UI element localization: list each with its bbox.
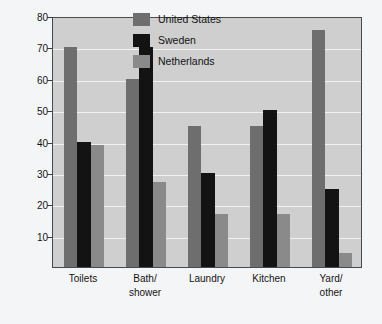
y-axis-tick-label: 60	[26, 74, 48, 85]
bar	[325, 189, 339, 267]
x-axis-category-label: Yard/other	[291, 272, 371, 299]
bar	[126, 79, 140, 267]
y-axis-tick-label: 20	[26, 200, 48, 211]
bar	[263, 110, 277, 267]
legend: United StatesSwedenNetherlands	[133, 9, 283, 72]
x-axis-category-label-line: shower	[105, 286, 185, 300]
bar-chart-figure: Liters of water per person per day 10203…	[0, 0, 382, 324]
legend-label: Netherlands	[158, 55, 215, 67]
bar	[312, 30, 326, 267]
bar	[215, 214, 229, 267]
x-axis-category-label-line: Yard/	[291, 272, 371, 286]
y-axis-tick-label: 50	[26, 106, 48, 117]
bar	[153, 182, 167, 267]
y-axis-tick-label: 80	[26, 12, 48, 23]
bar	[64, 47, 78, 267]
bar	[91, 145, 105, 267]
y-axis-tick-label: 30	[26, 168, 48, 179]
bar	[201, 173, 215, 267]
legend-swatch-icon	[133, 34, 150, 47]
y-axis-tick-label: 70	[26, 43, 48, 54]
legend-swatch-icon	[133, 55, 150, 68]
bar	[139, 47, 153, 267]
x-axis-category-labels: ToiletsBath/showerLaundryKitchenYard/oth…	[52, 272, 362, 318]
y-axis-tick-label: 10	[26, 231, 48, 242]
y-axis-tick-labels: 1020304050607080	[26, 14, 48, 270]
legend-label: United States	[158, 13, 221, 25]
legend-item: Sweden	[133, 30, 283, 50]
bar	[339, 253, 353, 267]
bar	[77, 142, 91, 268]
legend-label: Sweden	[158, 34, 196, 46]
legend-item: Netherlands	[133, 51, 283, 71]
legend-swatch-icon	[133, 13, 150, 26]
y-axis-tick-label: 40	[26, 137, 48, 148]
bar	[188, 126, 202, 267]
x-axis-category-label-line: other	[291, 286, 371, 300]
legend-item: United States	[133, 9, 283, 29]
bar	[277, 214, 291, 267]
bar	[250, 126, 264, 267]
